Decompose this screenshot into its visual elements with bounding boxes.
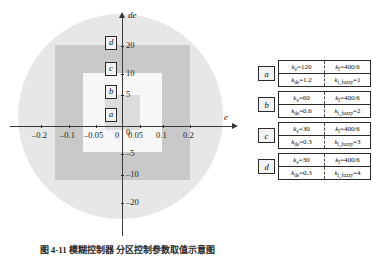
y-tick-mark xyxy=(121,175,124,176)
y-tick-label: 20 xyxy=(126,41,135,50)
legend-param-kde: kde=0.3 xyxy=(279,136,325,148)
legend-param-kde: kde=0.6 xyxy=(279,105,325,117)
region-badge-c: c xyxy=(105,62,117,76)
legend-row-a: ake=120kI=400/6kde=1.2ki_fuzzy=1 xyxy=(258,60,371,87)
y-tick-mark xyxy=(121,95,124,96)
figure-caption: 图 4-11 模糊控制器 分区控制参数取值示意图 xyxy=(0,243,255,256)
legend-table-b: ke=60kI=400/6kde=0.6ki_fuzzy=2 xyxy=(278,91,371,118)
plot-area: e de –0.2–0.1–0.0500.050.10.2 201050–5–1… xyxy=(0,0,255,240)
legend-param-kI: kI=400/6 xyxy=(325,154,370,166)
legend-param-ke: ke=60 xyxy=(279,92,325,104)
legend-param-ki-fuzzy: ki_fuzzy=2 xyxy=(325,105,370,117)
legend-table-c: ke=30kI=400/6kde=0.3ki_fuzzy=3 xyxy=(278,122,371,149)
legend-param-kI: kI=400/6 xyxy=(325,123,370,135)
legend-param-kI: kI=400/6 xyxy=(325,61,370,73)
x-tick-label: –0.05 xyxy=(84,131,103,140)
x-tick-mark xyxy=(140,125,141,128)
legend-key-c: c xyxy=(258,128,275,143)
legend-param-ke: ke=30 xyxy=(279,123,325,135)
y-tick-label: 5 xyxy=(126,90,130,99)
x-axis-label: e xyxy=(224,112,228,122)
legend-row-c: cke=30kI=400/6kde=0.3ki_fuzzy=3 xyxy=(258,122,371,149)
legend-param-kI: kI=400/6 xyxy=(325,92,370,104)
y-tick-mark xyxy=(121,203,124,204)
y-tick-mark xyxy=(121,46,124,47)
x-axis xyxy=(10,126,232,127)
legend-row-b: bke=60kI=400/6kde=0.6ki_fuzzy=2 xyxy=(258,91,371,118)
x-tick-mark xyxy=(122,125,123,128)
y-tick-label: –20 xyxy=(126,198,139,207)
legend-table-a: ke=120kI=400/6kde=1.2ki_fuzzy=1 xyxy=(278,60,371,87)
x-tick-label: 0.2 xyxy=(183,131,194,140)
x-tick-mark xyxy=(190,125,191,128)
region-badge-a: a xyxy=(105,108,117,122)
legend-key-b: b xyxy=(258,97,275,112)
x-tick-mark xyxy=(41,125,42,128)
x-tick-mark xyxy=(69,125,70,128)
region-badge-b: b xyxy=(105,85,117,99)
y-tick-mark xyxy=(121,74,124,75)
y-tick-label: 10 xyxy=(126,69,135,78)
y-axis-label: de xyxy=(128,10,137,20)
legend-key-a: a xyxy=(258,66,275,81)
legend-key-d: d xyxy=(258,159,275,174)
x-tick-label: 0 xyxy=(115,131,119,140)
x-tick-label: 0.1 xyxy=(156,131,167,140)
x-tick-label: –0.1 xyxy=(60,131,75,140)
parameter-legend: ake=120kI=400/6kde=1.2ki_fuzzy=1bke=60kI… xyxy=(258,60,371,184)
y-tick-label: 0 xyxy=(126,128,130,137)
legend-table-d: ke=30kI=400/6kde=0.3ki_fuzzy=4 xyxy=(278,153,371,180)
legend-param-ki-fuzzy: ki_fuzzy=4 xyxy=(325,167,370,179)
legend-param-ki-fuzzy: ki_fuzzy=3 xyxy=(325,136,370,148)
legend-param-kde: kde=1.2 xyxy=(279,74,325,86)
x-tick-mark xyxy=(163,125,164,128)
y-tick-label: –10 xyxy=(126,170,139,179)
legend-param-ke: ke=30 xyxy=(279,154,325,166)
x-tick-label: –0.2 xyxy=(32,131,47,140)
y-tick-mark xyxy=(121,154,124,155)
legend-param-ki-fuzzy: ki_fuzzy=1 xyxy=(325,74,370,86)
y-tick-label: –5 xyxy=(126,149,135,158)
x-tick-mark xyxy=(96,125,97,128)
legend-row-d: dke=30kI=400/6kde=0.3ki_fuzzy=4 xyxy=(258,153,371,180)
region-badge-d: d xyxy=(105,36,117,50)
legend-param-kde: kde=0.3 xyxy=(279,167,325,179)
legend-param-ke: ke=120 xyxy=(279,61,325,73)
